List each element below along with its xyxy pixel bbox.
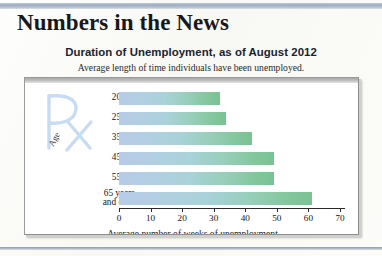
- bar: [119, 172, 274, 185]
- x-axis-tick-label: 20: [178, 213, 187, 223]
- x-axis-tick-label: 0: [117, 213, 122, 223]
- x-axis-tick: [182, 208, 183, 212]
- x-axis-tick: [277, 208, 278, 212]
- x-axis-tick: [340, 208, 341, 212]
- x-axis-tick-label: 70: [335, 213, 344, 223]
- bar: [119, 112, 226, 125]
- x-axis-label: Average number of weeks of unemployment: [25, 228, 359, 235]
- x-axis-tick: [151, 208, 152, 212]
- bar-row: [119, 128, 340, 148]
- x-axis-tick-label: 50: [272, 213, 281, 223]
- bar: [119, 132, 252, 145]
- bar-row: [119, 148, 340, 168]
- page-background: Numbers in the News Duration of Unemploy…: [0, 0, 382, 256]
- bar-row: [119, 108, 340, 128]
- page-title: Numbers in the News: [17, 10, 229, 36]
- chart-panel: Age 20–24 25–34 35–44 45–54 55–64 65 yea…: [24, 77, 359, 235]
- chart-title: Duration of Unemployment, as of August 2…: [0, 46, 382, 58]
- bar: [119, 92, 220, 105]
- bar-row: [119, 168, 340, 188]
- x-axis-tick: [245, 208, 246, 212]
- x-axis-tick-label: 40: [241, 213, 250, 223]
- bar: [119, 152, 274, 165]
- top-divider-rule: [0, 3, 382, 9]
- x-axis-tick: [119, 208, 120, 212]
- y-axis-label: Age: [46, 131, 62, 148]
- chart-subtitle: Average length of time individuals have …: [0, 62, 382, 73]
- bar-row: [119, 188, 340, 208]
- x-axis-tick: [308, 208, 309, 212]
- bar-row: [119, 88, 340, 108]
- panel-top-bevel: [25, 78, 358, 83]
- bar: [119, 192, 312, 205]
- x-axis-tick-label: 60: [304, 213, 313, 223]
- x-axis-tick-label: 30: [209, 213, 218, 223]
- x-axis-line: [119, 208, 345, 209]
- plot-area: [119, 88, 340, 208]
- x-axis-tick-label: 10: [146, 213, 155, 223]
- x-axis-tick: [214, 208, 215, 212]
- bottom-divider-rule: [0, 247, 382, 250]
